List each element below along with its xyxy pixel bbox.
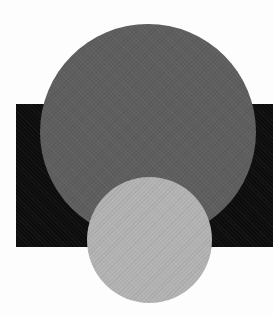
light-gray-circle bbox=[87, 177, 212, 303]
diagram-canvas bbox=[0, 0, 273, 315]
texture-overlay bbox=[87, 177, 212, 303]
